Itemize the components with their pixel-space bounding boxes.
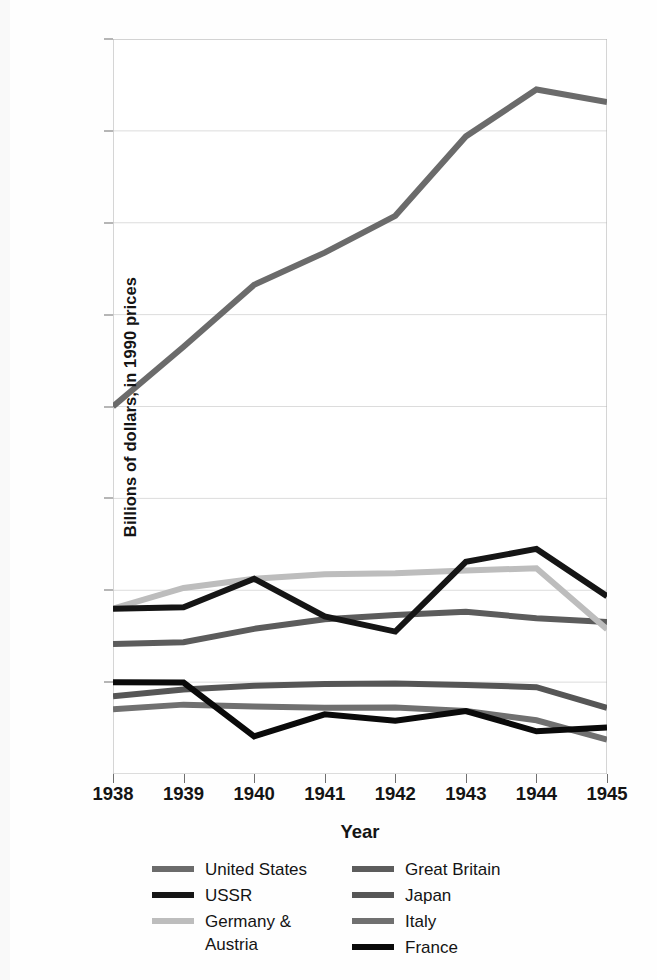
legend-column-left: United StatesUSSRGermany & Austria: [152, 858, 352, 959]
y-axis-tick-mark: [104, 498, 113, 499]
x-axis-tick-mark: [113, 774, 114, 783]
x-axis-tick-mark: [536, 774, 537, 783]
x-axis-tick-mark: [184, 774, 185, 783]
y-axis-tick-mark: [104, 39, 113, 40]
chart-legend: United StatesUSSRGermany & Austria Great…: [152, 858, 552, 959]
line-chart-svg: [113, 39, 607, 774]
legend-swatch-icon: [152, 866, 194, 872]
legend-item[interactable]: Japan: [352, 884, 552, 907]
legend-swatch-icon: [152, 918, 194, 924]
x-axis-tick-label: 1945: [562, 783, 652, 805]
chart-figure: Billions of dollars, in 1990 prices $1,6…: [0, 0, 657, 980]
y-axis-tick-mark: [104, 406, 113, 407]
legend-item[interactable]: France: [352, 936, 552, 959]
legend-item[interactable]: Germany & Austria: [152, 910, 352, 956]
y-axis-tick-mark: [104, 314, 113, 315]
legend-item-label: Japan: [405, 884, 451, 907]
y-axis-tick-mark: [104, 130, 113, 131]
x-axis-tick-mark: [466, 774, 467, 783]
x-axis-tick-mark: [607, 774, 608, 783]
x-axis-tick-mark: [254, 774, 255, 783]
legend-item-label: Italy: [405, 910, 436, 933]
x-axis-tick-mark: [395, 774, 396, 783]
legend-swatch-icon: [352, 944, 394, 950]
legend-item[interactable]: USSR: [152, 884, 352, 907]
y-axis-tick-mark: [104, 222, 113, 223]
y-axis-label: Billions of dollars, in 1990 prices: [121, 147, 140, 667]
legend-item[interactable]: Italy: [352, 910, 552, 933]
y-axis-tick-mark: [104, 590, 113, 591]
plot-area: Billions of dollars, in 1990 prices $1,6…: [113, 39, 607, 774]
legend-swatch-icon: [352, 918, 394, 924]
legend-swatch-icon: [352, 892, 394, 898]
legend-item-label: France: [405, 936, 458, 959]
legend-item-label: United States: [205, 858, 307, 881]
y-axis-tick-mark: [104, 682, 113, 683]
legend-item-label: Great Britain: [405, 858, 500, 881]
legend-item-label: Germany & Austria: [205, 910, 291, 956]
legend-item[interactable]: Great Britain: [352, 858, 552, 881]
legend-column-right: Great BritainJapanItalyFrance: [352, 858, 552, 959]
legend-swatch-icon: [352, 866, 394, 872]
x-axis-label: Year: [113, 821, 607, 843]
legend-item[interactable]: United States: [152, 858, 352, 881]
x-axis-tick-mark: [325, 774, 326, 783]
legend-swatch-icon: [152, 892, 194, 898]
legend-item-label: USSR: [205, 884, 252, 907]
